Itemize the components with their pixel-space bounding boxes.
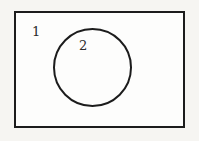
diagram-canvas: 1 2 [0,0,199,141]
inner-set-circle [53,28,132,107]
inner-set-label: 2 [79,39,87,53]
outer-set-label: 1 [32,25,40,39]
